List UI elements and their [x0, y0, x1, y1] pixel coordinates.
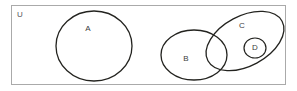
set-b-label: B: [183, 54, 188, 63]
set-a-label: A: [85, 24, 91, 33]
venn-diagram-figure: U A B C D: [0, 0, 297, 91]
set-c-label: C: [239, 21, 245, 30]
set-d-label: D: [252, 43, 258, 52]
universal-set-label: U: [17, 10, 23, 19]
venn-diagram-canvas: U A B C D: [0, 0, 297, 91]
